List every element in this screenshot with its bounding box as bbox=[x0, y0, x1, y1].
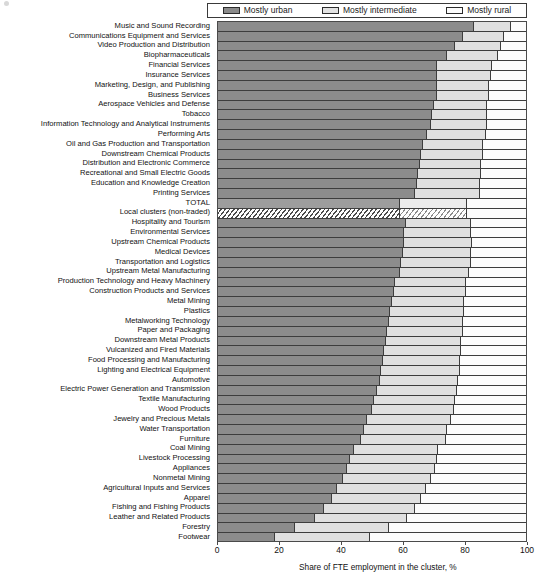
stacked-bar-chart: Mostly urban Mostly intermediate Mostly … bbox=[0, 0, 544, 579]
bar-row bbox=[218, 307, 526, 317]
bar-segment-intermediate bbox=[404, 228, 470, 238]
bar-row bbox=[218, 366, 526, 376]
bar-segment-rural bbox=[489, 91, 526, 101]
bar-segment-intermediate bbox=[324, 504, 415, 514]
bar-segment-intermediate bbox=[437, 61, 492, 71]
bar-row bbox=[218, 523, 526, 533]
bar-segment-intermediate bbox=[384, 346, 461, 356]
bar-segment-urban bbox=[218, 140, 423, 150]
y-axis-labels: Music and Sound RecordingCommunications … bbox=[0, 21, 214, 542]
bar-segment-rural bbox=[471, 258, 526, 268]
bar-row bbox=[218, 209, 526, 219]
bar-segment-urban bbox=[218, 297, 392, 307]
y-axis-tick-label: Plastics bbox=[184, 307, 210, 315]
bar-segment-urban bbox=[218, 287, 394, 297]
chart-legend: Mostly urban Mostly intermediate Mostly … bbox=[207, 3, 527, 18]
bar-segment-intermediate bbox=[343, 474, 431, 484]
y-axis-tick-label: Leather and Related Products bbox=[109, 513, 210, 521]
x-axis-tick-label: 80 bbox=[460, 545, 469, 555]
legend-label-urban: Mostly urban bbox=[244, 6, 293, 15]
y-axis-tick-label: Coal Mining bbox=[170, 444, 210, 452]
bar-segment-urban bbox=[218, 386, 377, 396]
x-axis-tick-label: 60 bbox=[398, 545, 407, 555]
bar-row bbox=[218, 258, 526, 268]
y-axis-tick-label: TOTAL bbox=[186, 199, 210, 207]
bar-segment-urban bbox=[218, 514, 315, 524]
bar-row bbox=[218, 110, 526, 120]
bar-row bbox=[218, 464, 526, 474]
bar-segment-rural bbox=[421, 494, 526, 504]
x-axis-tick-label: 100 bbox=[520, 545, 534, 555]
bar-segment-rural bbox=[426, 484, 526, 494]
bar-row bbox=[218, 22, 526, 32]
legend-item-mostly-urban: Mostly urban bbox=[223, 6, 293, 15]
bar-segment-intermediate bbox=[400, 209, 468, 219]
y-axis-tick-label: Information Technology and Analytical In… bbox=[41, 120, 210, 128]
y-axis-tick-label: Food Processing and Manufacturing bbox=[88, 356, 210, 364]
bar-segment-rural bbox=[463, 327, 526, 337]
bar-segment-urban bbox=[218, 160, 420, 170]
bar-segment-urban bbox=[218, 474, 343, 484]
bar-segment-rural bbox=[437, 455, 526, 465]
bar-segment-rural bbox=[480, 179, 526, 189]
bar-segment-intermediate bbox=[390, 307, 464, 317]
bar-segment-intermediate bbox=[406, 219, 471, 229]
bar-segment-intermediate bbox=[420, 160, 482, 170]
x-axis-title: Share of FTE employment in the cluster, … bbox=[299, 562, 457, 572]
bar-segment-rural bbox=[492, 61, 526, 71]
bar-segment-rural bbox=[481, 169, 526, 179]
bar-segment-intermediate bbox=[337, 484, 426, 494]
bar-row bbox=[218, 228, 526, 238]
y-axis-tick-label: Footwear bbox=[178, 533, 210, 541]
bar-segment-urban bbox=[218, 150, 421, 160]
y-axis-tick-label: Forestry bbox=[182, 523, 210, 531]
legend-label-rural: Mostly rural bbox=[467, 6, 511, 15]
bar-row bbox=[218, 101, 526, 111]
bar-segment-urban bbox=[218, 317, 389, 327]
bar-segment-urban bbox=[218, 91, 437, 101]
bar-segment-urban bbox=[218, 130, 427, 140]
bar-segment-urban bbox=[218, 51, 447, 61]
bar-segment-rural bbox=[464, 297, 526, 307]
bar-segment-urban bbox=[218, 366, 381, 376]
bar-segment-urban bbox=[218, 356, 383, 366]
bar-segment-intermediate bbox=[347, 464, 435, 474]
bar-segment-urban bbox=[218, 110, 432, 120]
bar-segment-intermediate bbox=[421, 150, 483, 160]
bar-segment-urban bbox=[218, 71, 437, 81]
bar-segment-rural bbox=[447, 425, 526, 435]
bar-segment-urban bbox=[218, 376, 380, 386]
bar-segment-intermediate bbox=[423, 140, 483, 150]
bar-row bbox=[218, 160, 526, 170]
y-axis-tick-label: Upstream Metal Manufacturing bbox=[106, 267, 210, 275]
bar-segment-intermediate bbox=[394, 287, 466, 297]
bar-segment-rural bbox=[471, 248, 526, 258]
y-axis-tick-label: Lighting and Electrical Equipment bbox=[97, 366, 210, 374]
bar-segment-intermediate bbox=[377, 386, 457, 396]
bar-row bbox=[218, 120, 526, 130]
plot-area bbox=[217, 21, 527, 542]
bar-segment-urban bbox=[218, 464, 347, 474]
legend-swatch-urban-icon bbox=[223, 7, 240, 14]
bar-segment-intermediate bbox=[400, 199, 468, 209]
bar-segment-rural bbox=[471, 228, 526, 238]
y-axis-tick-label: Downstream Chemical Products bbox=[102, 150, 210, 158]
bar-row bbox=[218, 337, 526, 347]
legend-label-intermediate: Mostly intermediate bbox=[343, 6, 417, 15]
x-axis-tick-label: 20 bbox=[274, 545, 283, 555]
bar-row bbox=[218, 199, 526, 209]
bar-segment-rural bbox=[454, 405, 526, 415]
bar-segment-rural bbox=[498, 51, 526, 61]
bar-row bbox=[218, 219, 526, 229]
y-axis-tick-label: Fishing and Fishing Products bbox=[112, 503, 210, 511]
bar-segment-rural bbox=[455, 396, 526, 406]
bar-row bbox=[218, 91, 526, 101]
bar-row bbox=[218, 32, 526, 42]
bar-segment-intermediate bbox=[372, 405, 454, 415]
bar-segment-urban bbox=[218, 32, 463, 42]
bar-segment-rural bbox=[461, 346, 526, 356]
y-axis-tick-label: Metalworking Technology bbox=[125, 317, 210, 325]
bar-segment-intermediate bbox=[389, 317, 463, 327]
bar-segment-urban bbox=[218, 199, 400, 209]
y-axis-tick-label: Oil and Gas Production and Transportatio… bbox=[66, 140, 210, 148]
